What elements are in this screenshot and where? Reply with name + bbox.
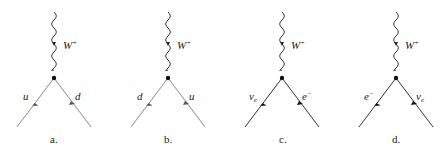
vertex-dot bbox=[166, 76, 170, 80]
diagram-d: W+ e− νe d. bbox=[359, 12, 433, 145]
left-fermion-label: e− bbox=[364, 90, 374, 102]
feynman-diagrams-svg: W+ u d a. W+ d u b. W+ νe e− c. bbox=[0, 0, 447, 154]
w-boson-propagator bbox=[166, 12, 171, 71]
w-boson-propagator bbox=[394, 12, 399, 71]
feynman-diagram-figure: W+ u d a. W+ d u b. W+ νe e− c. bbox=[0, 0, 447, 154]
diagram-c: W+ νe e− c. bbox=[245, 12, 319, 145]
incoming-fermion-line bbox=[245, 78, 282, 127]
vertex-dot bbox=[52, 76, 56, 80]
right-fermion-label: u bbox=[189, 90, 195, 102]
left-fermion-label: d bbox=[137, 90, 143, 102]
diagram-caption: d. bbox=[392, 133, 401, 145]
boson-label: W+ bbox=[177, 39, 191, 51]
vertex-dot bbox=[394, 76, 398, 80]
right-fermion-label: e− bbox=[302, 90, 312, 102]
diagram-caption: c. bbox=[279, 133, 287, 145]
boson-label: W+ bbox=[405, 39, 419, 51]
right-fermion-label: νe bbox=[416, 90, 424, 104]
diagram-caption: a. bbox=[50, 133, 58, 145]
incoming-fermion-line bbox=[17, 78, 54, 127]
diagram-caption: b. bbox=[164, 133, 173, 145]
w-boson-propagator bbox=[52, 12, 57, 71]
boson-label: W+ bbox=[291, 39, 305, 51]
left-fermion-label: u bbox=[23, 90, 29, 102]
incoming-fermion-line bbox=[359, 78, 396, 127]
left-fermion-label: νe bbox=[249, 90, 257, 104]
diagram-b: W+ d u b. bbox=[131, 12, 205, 145]
incoming-fermion-line bbox=[131, 78, 168, 127]
boson-label: W+ bbox=[63, 39, 77, 51]
vertex-dot bbox=[280, 76, 284, 80]
right-fermion-label: d bbox=[75, 90, 81, 102]
w-boson-propagator bbox=[280, 12, 285, 71]
diagram-a: W+ u d a. bbox=[17, 12, 91, 145]
